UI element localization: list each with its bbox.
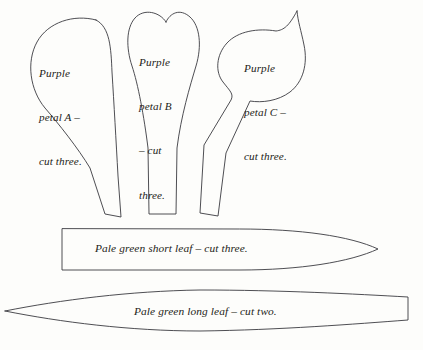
- label-petal-b-line4: three.: [139, 188, 172, 203]
- label-petal-b-line3: – cut: [139, 143, 172, 158]
- label-petal-a-line2: petal A –: [39, 110, 82, 125]
- label-petal-a-line1: Purple: [39, 66, 82, 81]
- pattern-sheet: Purple petal A – cut three. Purple petal…: [0, 0, 423, 350]
- label-petal-c-line3: cut three.: [244, 149, 287, 164]
- label-petal-a: Purple petal A – cut three.: [39, 36, 82, 199]
- label-leaf-long: Pale green long leaf – cut two.: [134, 304, 277, 319]
- label-leaf-short: Pale green short leaf – cut three.: [95, 241, 248, 256]
- label-petal-c-line1: Purple: [244, 61, 287, 76]
- label-petal-b-line1: Purple: [139, 55, 172, 70]
- label-petal-c: Purple petal C – cut three.: [244, 31, 287, 194]
- label-petal-b-line2: petal B: [139, 99, 172, 114]
- label-petal-b: Purple petal B – cut three.: [139, 25, 172, 232]
- label-petal-a-line3: cut three.: [39, 154, 82, 169]
- label-petal-c-line2: petal C –: [244, 105, 287, 120]
